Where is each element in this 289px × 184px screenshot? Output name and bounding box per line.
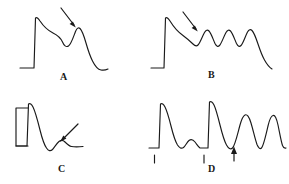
panel-d: D bbox=[145, 92, 289, 184]
waveform-trace-d bbox=[149, 102, 286, 149]
waveform-trace-c bbox=[16, 104, 83, 151]
panel-label-a: A bbox=[60, 72, 67, 82]
annotation-arrow-head-d bbox=[231, 147, 237, 155]
figure-root: A B C bbox=[0, 0, 289, 184]
panel-b: B bbox=[145, 0, 289, 92]
panel-c-tracing bbox=[0, 92, 144, 184]
panel-a-tracing bbox=[0, 0, 144, 92]
panel-a: A bbox=[0, 0, 144, 92]
panel-label-b: B bbox=[208, 70, 215, 80]
annotation-arrow-head-b bbox=[192, 25, 198, 31]
panel-b-tracing bbox=[145, 0, 289, 92]
panel-label-d: D bbox=[208, 164, 215, 174]
panel-label-c: C bbox=[58, 164, 65, 174]
panel-c: C bbox=[0, 92, 144, 184]
panel-d-tracing bbox=[145, 92, 289, 184]
annotation-arrow-head-a bbox=[70, 21, 76, 27]
waveform-trace-a bbox=[20, 18, 108, 71]
calibration-bracket-c bbox=[16, 108, 28, 146]
waveform-trace-b bbox=[151, 18, 272, 69]
